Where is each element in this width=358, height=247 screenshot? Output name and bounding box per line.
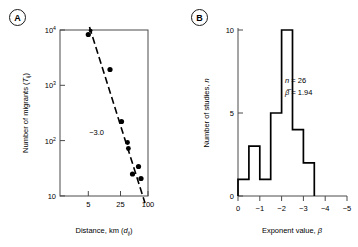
x-ticks-b <box>238 196 347 201</box>
annotation-mean-beta-b: β̅ = 1.94 <box>284 88 312 97</box>
y-axis-label-b: Number of studies, n <box>202 78 211 147</box>
x-ticklabel-minus4: −4 <box>321 204 330 213</box>
x-ticklabel-minus3: −3 <box>299 204 308 213</box>
x-ticklabel-0: 0 <box>236 204 240 213</box>
x-ticklabel-5: 5 <box>86 200 90 209</box>
y-ticklabel-100: 102 <box>45 136 56 146</box>
x-ticklabel-minus2: −2 <box>277 204 286 213</box>
slope-annotation-a: −3.0 <box>89 128 104 137</box>
data-point <box>136 164 141 169</box>
data-point <box>126 146 131 151</box>
data-point <box>130 171 135 176</box>
x-ticklabel-minus5: −5 <box>343 204 352 213</box>
y-ticklabels-a: 104 103 102 10 <box>45 25 56 201</box>
x-ticklabels-b: 0 −1 −2 −3 −4 −5 <box>236 204 351 213</box>
y-ticks-b <box>238 30 243 196</box>
data-point <box>107 67 112 72</box>
data-point <box>138 176 143 181</box>
data-point <box>86 32 91 37</box>
y-ticklabels-b: 0 5 10 <box>226 26 234 201</box>
panel-a-plot: 104 103 102 10 5 25 100 −3.0 <box>0 0 179 247</box>
y-ticklabel-0: 0 <box>230 192 234 201</box>
regression-line-a <box>90 27 146 203</box>
y-ticklabel-10: 10 <box>48 192 56 201</box>
data-point <box>125 140 130 145</box>
data-point <box>119 119 124 124</box>
y-ticklabel-1000: 103 <box>45 80 56 90</box>
panel-a: A 104 103 102 10 5 25 100 <box>0 0 179 247</box>
x-ticklabel-minus1: −1 <box>256 204 265 213</box>
x-ticklabel-25: 25 <box>116 200 124 209</box>
y-ticklabel-5: 5 <box>230 109 234 118</box>
x-axis-label-a: Distance, km (dij) <box>76 226 133 236</box>
data-points-a <box>86 29 144 181</box>
panel-b: B 0 5 10 0 −1 −2 −3 −4 <box>179 0 358 247</box>
x-ticks-a <box>88 191 148 196</box>
panel-b-plot: 0 5 10 0 −1 −2 −3 −4 −5 n = 26 β̅ = 1.94… <box>179 0 358 247</box>
annotation-n-b: n = 26 <box>285 76 306 85</box>
data-point <box>89 29 93 33</box>
y-ticklabel-10000: 104 <box>45 25 56 35</box>
y-axis-label-a: Number of migrants (Tij) <box>21 73 31 153</box>
histogram-outline-b <box>238 30 314 196</box>
y-ticklabel-10: 10 <box>226 26 234 35</box>
x-axis-label-b: Exponent value, β <box>262 226 323 235</box>
y-ticks-a <box>60 30 65 196</box>
x-ticklabel-100: 100 <box>142 200 155 209</box>
